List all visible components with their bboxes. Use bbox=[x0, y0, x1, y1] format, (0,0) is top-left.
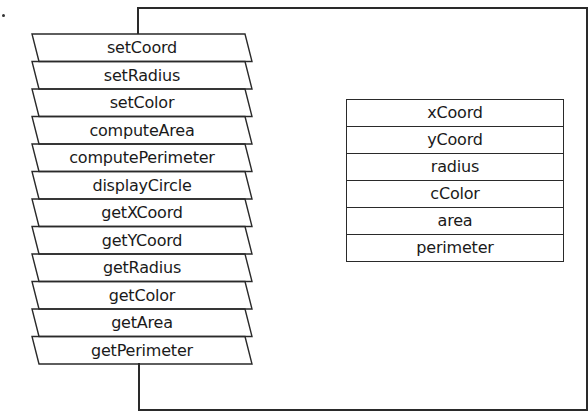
field-y-coord: yCoord bbox=[347, 127, 563, 154]
boundary-right-line bbox=[586, 7, 588, 411]
method-set-coord: setCoord bbox=[32, 34, 252, 61]
method-set-radius: setRadius bbox=[32, 62, 252, 89]
circle-class-diagram: setCoord setRadius setColor computeArea … bbox=[0, 0, 588, 414]
data-fields-box: xCoord yCoord radius cColor area perimet… bbox=[346, 99, 564, 262]
field-radius: radius bbox=[347, 154, 563, 181]
field-c-color: cColor bbox=[347, 181, 563, 208]
method-get-radius: getRadius bbox=[32, 254, 252, 281]
field-x-coord: xCoord bbox=[347, 100, 563, 127]
method-get-color: getColor bbox=[32, 282, 252, 309]
method-compute-perimeter: computePerimeter bbox=[32, 144, 252, 171]
method-stack: setCoord setRadius setColor computeArea … bbox=[0, 0, 300, 414]
method-display-circle: displayCircle bbox=[32, 172, 252, 199]
method-get-y-coord: getYCoord bbox=[32, 227, 252, 254]
method-get-area: getArea bbox=[32, 309, 252, 336]
method-set-color: setColor bbox=[32, 89, 252, 116]
method-get-x-coord: getXCoord bbox=[32, 199, 252, 226]
field-area: area bbox=[347, 208, 563, 235]
method-get-perimeter: getPerimeter bbox=[32, 337, 252, 364]
method-compute-area: computeArea bbox=[32, 117, 252, 144]
field-perimeter: perimeter bbox=[347, 235, 563, 261]
